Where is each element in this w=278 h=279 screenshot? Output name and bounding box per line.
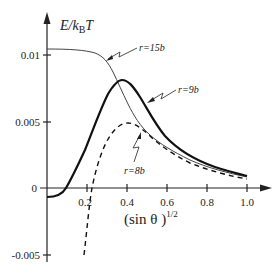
x-axis-label: (sin θ )1/2 (124, 209, 178, 228)
arrowhead-icon (147, 97, 155, 103)
svg-text:r=9b: r=9b (178, 84, 199, 95)
annotation-r15b: r=15b (106, 42, 165, 61)
svg-text:r=15b: r=15b (139, 42, 165, 53)
x-tick-label: 0.4 (120, 196, 134, 208)
series-r15b-line (47, 49, 247, 177)
y-axis-arrow-icon (44, 12, 51, 24)
series-r8b-line (84, 123, 247, 255)
energy-chart: 0.01 0.005 0 -0.005 0.2 0.4 0.6 0.8 1.0 … (0, 0, 278, 279)
y-tick-label: 0 (32, 182, 38, 194)
x-tick-label: 1.0 (240, 196, 254, 208)
y-axis-label: E/kBT (59, 18, 94, 35)
arrowhead-icon (106, 55, 113, 61)
y-tick-label: 0.005 (15, 116, 40, 128)
arrowhead-icon (137, 132, 141, 139)
series-r9b-line (47, 80, 247, 197)
annotation-r8b: r=8b (124, 132, 145, 176)
x-axis-arrow-icon (260, 185, 272, 192)
svg-text:r=8b: r=8b (124, 165, 145, 176)
y-tick-label: -0.005 (12, 249, 41, 261)
y-tick-label: 0.01 (21, 49, 40, 61)
x-tick-label: 0.6 (160, 196, 174, 208)
annotation-r9b: r=9b (147, 84, 199, 103)
x-tick-label: 0.8 (200, 196, 214, 208)
